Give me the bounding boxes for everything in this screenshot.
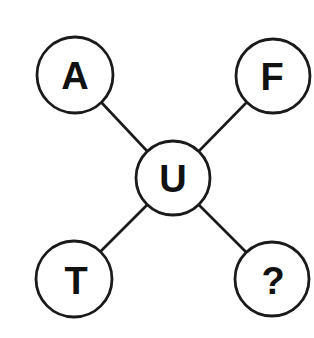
node-letter: A: [61, 55, 88, 97]
node-bottom-right: ?: [235, 242, 309, 316]
node-letter: T: [64, 260, 87, 302]
letter-puzzle-diagram: A F U T ?: [0, 0, 314, 338]
connector-bottom-left: [100, 205, 147, 252]
node-letter: F: [260, 56, 283, 98]
question-mark-icon: ?: [261, 260, 284, 302]
node-top-left: A: [37, 37, 113, 113]
node-bottom-left: T: [36, 241, 112, 317]
connector-bottom-right: [199, 205, 246, 252]
node-letter: U: [159, 158, 186, 200]
node-top-right: F: [236, 39, 310, 113]
connector-top-left: [101, 102, 147, 151]
connector-top-right: [199, 103, 246, 151]
node-center: U: [136, 141, 210, 215]
